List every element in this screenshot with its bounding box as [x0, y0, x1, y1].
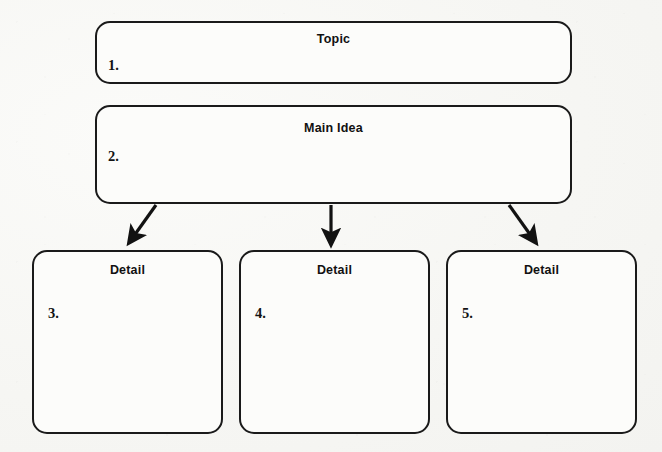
arrow-to-detail-3 [131, 205, 156, 240]
detail-heading-3: Detail [34, 264, 221, 277]
main-idea-heading: Main Idea [97, 122, 570, 135]
main-idea-box[interactable]: Main Idea 2. [95, 105, 572, 204]
arrow-to-detail-5 [509, 205, 534, 240]
detail-heading-4: Detail [241, 264, 428, 277]
detail-number-5: 5. [462, 306, 473, 321]
topic-heading: Topic [97, 33, 570, 46]
detail-number-3: 3. [48, 306, 59, 321]
topic-number: 1. [108, 58, 119, 73]
detail-box-3[interactable]: Detail 3. [32, 250, 223, 434]
main-idea-number: 2. [108, 149, 119, 164]
detail-box-4[interactable]: Detail 4. [239, 250, 430, 434]
detail-box-5[interactable]: Detail 5. [446, 250, 637, 434]
detail-number-4: 4. [255, 306, 266, 321]
topic-box[interactable]: Topic 1. [95, 21, 572, 84]
graphic-organizer: Topic 1. Main Idea 2. Detail 3. Detail [0, 0, 662, 452]
detail-heading-5: Detail [448, 264, 635, 277]
